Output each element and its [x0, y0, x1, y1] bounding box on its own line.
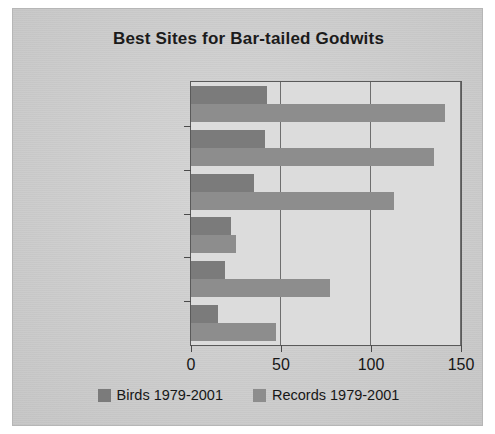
x-axis-tick-100: [371, 345, 372, 352]
chart-legend: Birds 1979-2001Records 1979-2001: [13, 387, 484, 403]
y-axis-tick: [184, 170, 191, 171]
bar-birds: [191, 261, 225, 279]
bar-birds: [191, 217, 231, 235]
legend-label: Records 1979-2001: [272, 387, 399, 403]
y-axis-tick: [184, 301, 191, 302]
bar-birds: [191, 305, 218, 323]
x-axis-tick-label: 150: [431, 356, 491, 374]
bar-records: [191, 104, 445, 122]
y-axis-tick: [184, 126, 191, 127]
legend-swatch-icon: [253, 389, 266, 402]
bar-birds: [191, 130, 265, 148]
chart-title: Best Sites for Bar-tailed Godwits: [13, 29, 484, 49]
legend-item[interactable]: Records 1979-2001: [253, 387, 399, 403]
x-axis-tick-label: 50: [251, 356, 311, 374]
x-axis-tick-label: 0: [161, 356, 221, 374]
x-axis-tick-50: [281, 345, 282, 352]
x-axis-tick-150: [461, 345, 462, 352]
legend-swatch-icon: [98, 389, 111, 402]
bar-records: [191, 323, 276, 341]
chart-figure: Best Sites for Bar-tailed Godwits Belvid…: [0, 0, 495, 434]
bar-birds: [191, 174, 254, 192]
bar-records: [191, 148, 434, 166]
x-axis-tick-label: 100: [341, 356, 401, 374]
legend-label: Birds 1979-2001: [117, 387, 223, 403]
gridline-x-150: [460, 82, 461, 345]
plot-area: Belvide ReservoirBlithfield ReservoirDra…: [190, 81, 462, 346]
bar-birds: [191, 86, 267, 104]
bar-records: [191, 192, 394, 210]
x-axis-tick-0: [191, 345, 192, 352]
legend-item[interactable]: Birds 1979-2001: [98, 387, 223, 403]
chart-plate: Best Sites for Bar-tailed Godwits Belvid…: [12, 8, 483, 426]
bar-records: [191, 235, 236, 253]
bar-records: [191, 279, 330, 297]
y-axis-tick: [184, 214, 191, 215]
y-axis-tick: [184, 257, 191, 258]
